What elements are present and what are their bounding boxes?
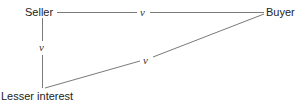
diagram-canvas: v v v Seller Buyer Lesser interest	[0, 0, 307, 106]
edge-lesser-buyer: v	[45, 14, 264, 88]
node-lesser-interest: Lesser interest	[1, 90, 73, 102]
edge-label-seller-buyer: v	[140, 6, 145, 18]
node-buyer: Buyer	[266, 6, 295, 18]
node-seller: Seller	[25, 6, 53, 18]
edge-label-lesser-buyer: v	[143, 54, 148, 66]
edge-line-segment	[45, 61, 140, 88]
edge-label-seller-lesser: v	[39, 41, 44, 53]
edge-seller-buyer: v	[57, 6, 264, 18]
edge-seller-lesser: v	[39, 18, 44, 88]
edge-line-segment	[153, 14, 264, 57]
